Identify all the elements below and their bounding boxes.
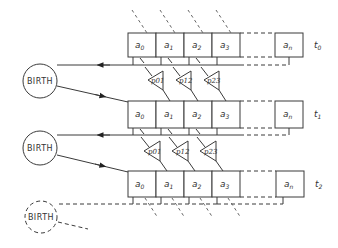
row-t0: a0 a1 a2 a3 an t0 xyxy=(128,10,322,65)
svg-text:BIRTH: BIRTH xyxy=(27,144,53,153)
transition-t1-t2: p01 p12 p23 xyxy=(141,137,223,171)
transition-label: p12 xyxy=(176,148,190,156)
transition-label: p23 xyxy=(204,148,218,156)
birth-line-3 xyxy=(58,222,88,229)
time-label-t0: t0 xyxy=(314,40,322,51)
birth-node-2: BIRTH xyxy=(23,131,57,165)
transition-label: p01 xyxy=(151,77,164,85)
transition-label: p12 xyxy=(179,77,193,85)
row-t2: a0 a1 a2 a3 an t2 xyxy=(128,171,323,218)
birth-node-1: BIRTH xyxy=(23,64,57,98)
diagram-canvas: a0 a1 a2 a3 an t0 BIRTH p01 p12 xyxy=(0,0,338,248)
birth-line-1 xyxy=(57,86,128,102)
birth-node-3: BIRTH xyxy=(25,201,57,233)
svg-text:BIRTH: BIRTH xyxy=(28,213,54,222)
transition-label: p01 xyxy=(148,148,161,156)
time-label-t2: t2 xyxy=(315,179,323,190)
birth-line-2 xyxy=(57,155,128,172)
time-label-t1: t1 xyxy=(314,109,321,120)
row-t1: a0 a1 a2 a3 an t1 xyxy=(128,101,321,135)
transition-label: p23 xyxy=(207,77,221,85)
svg-text:BIRTH: BIRTH xyxy=(27,77,53,86)
transition-t0-t1: p01 p12 p23 xyxy=(145,67,226,101)
